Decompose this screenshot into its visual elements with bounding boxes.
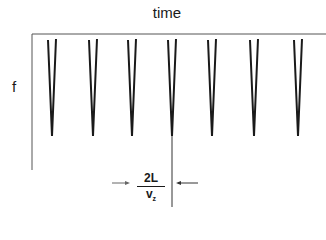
- spike: [250, 39, 258, 136]
- period-numerator: 2L: [137, 172, 165, 187]
- period-denominator: vz: [137, 187, 165, 206]
- spike: [48, 39, 56, 136]
- spike: [294, 39, 302, 136]
- spike: [168, 39, 176, 136]
- period-label: 2L vz: [137, 172, 165, 206]
- spike: [128, 39, 136, 136]
- spike-group: [48, 39, 302, 136]
- spike: [89, 39, 97, 136]
- right-arrow-icon: [176, 181, 198, 185]
- spike: [208, 39, 216, 136]
- left-arrow-icon: [112, 181, 130, 185]
